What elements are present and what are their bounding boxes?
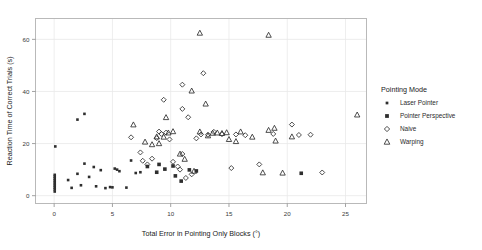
marker-square-small bbox=[386, 102, 389, 105]
marker-square-small bbox=[104, 187, 107, 190]
marker-square-small bbox=[109, 186, 112, 189]
marker-square-small bbox=[70, 187, 73, 190]
marker-square-small bbox=[95, 185, 98, 188]
marker-square-small bbox=[125, 186, 128, 189]
y-tick-label: 60 bbox=[23, 36, 30, 43]
y-tick-label: 20 bbox=[23, 140, 30, 147]
marker-square-small bbox=[99, 169, 102, 172]
marker-square-small bbox=[83, 113, 86, 116]
y-tick-label: 0 bbox=[26, 192, 30, 199]
marker-square-small bbox=[67, 179, 70, 182]
marker-square-small bbox=[134, 172, 137, 175]
marker-square-small bbox=[76, 118, 79, 121]
marker-square bbox=[163, 167, 167, 171]
marker-square-small bbox=[130, 159, 133, 162]
legend-item-label: Pointer Perspective bbox=[400, 112, 456, 120]
x-tick-label: 15 bbox=[226, 210, 233, 217]
marker-square bbox=[299, 171, 303, 175]
x-tick-label: 20 bbox=[284, 210, 291, 217]
legend-title: Pointing Mode bbox=[381, 85, 427, 94]
legend-item-label: Warping bbox=[400, 138, 424, 146]
x-tick-label: 0 bbox=[52, 210, 56, 217]
marker-square-small bbox=[76, 172, 79, 175]
marker-square bbox=[188, 168, 192, 172]
marker-square-small bbox=[92, 166, 95, 169]
marker-square-small bbox=[111, 186, 114, 189]
legend-item-label: Laser Pointer bbox=[400, 99, 439, 106]
marker-square-small bbox=[54, 145, 57, 148]
y-axis-title: Reaction Time of Correct Trials (s) bbox=[5, 56, 14, 165]
marker-square-small bbox=[53, 174, 56, 177]
marker-square-small bbox=[80, 184, 83, 187]
chart-canvas: 0510152025 0204060 Total Error in Pointi… bbox=[0, 0, 482, 250]
marker-square bbox=[174, 174, 178, 178]
x-tick-label: 5 bbox=[111, 210, 115, 217]
marker-square-small bbox=[139, 171, 142, 174]
y-tick-label: 40 bbox=[23, 88, 30, 95]
marker-square-small bbox=[118, 170, 121, 173]
x-axis-title: Total Error in Pointing Only Blocks (°) bbox=[142, 229, 260, 238]
marker-square bbox=[157, 163, 161, 167]
marker-square-small bbox=[88, 176, 91, 179]
legend-item-label: Naive bbox=[400, 125, 417, 132]
marker-square-small bbox=[116, 168, 119, 171]
x-tick-label: 10 bbox=[167, 210, 174, 217]
marker-square bbox=[179, 179, 183, 183]
marker-square bbox=[155, 170, 159, 174]
marker-square-small bbox=[113, 167, 116, 170]
marker-square-small bbox=[83, 162, 86, 165]
marker-square bbox=[385, 114, 389, 118]
x-tick-label: 25 bbox=[342, 210, 349, 217]
scatter-plot-figure: 0510152025 0204060 Total Error in Pointi… bbox=[0, 0, 482, 250]
